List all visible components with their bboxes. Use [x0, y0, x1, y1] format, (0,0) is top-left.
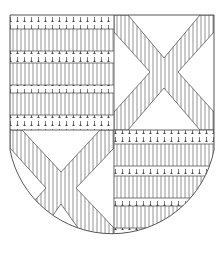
heraldic-shield	[0, 0, 224, 259]
shield-drawing	[0, 0, 224, 259]
quarter-sinister-base	[114, 130, 214, 259]
quarter-dexter-base	[10, 130, 114, 259]
shield-field	[0, 0, 224, 259]
quarter-sinister-chief	[114, 15, 214, 130]
quarter-dexter-chief	[10, 15, 114, 130]
